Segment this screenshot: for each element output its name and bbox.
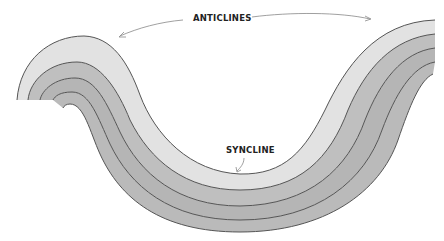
arrow-left-anticline (120, 20, 183, 36)
anticlines-label: ANTICLINES (193, 13, 252, 23)
arrow-right-anticline (252, 13, 370, 19)
arrow-syncline (237, 158, 244, 171)
syncline-label: SYNCLINE (226, 145, 275, 155)
fold-cross-section (0, 0, 444, 241)
fold-diagram: ANTICLINES SYNCLINE (0, 0, 444, 241)
